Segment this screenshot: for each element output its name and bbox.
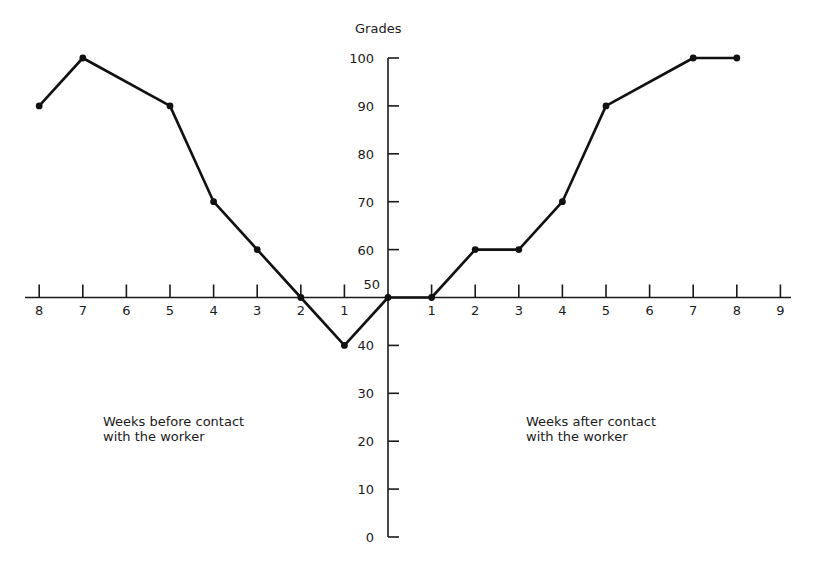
data-point-marker	[428, 294, 435, 301]
x-tick-label: 4	[558, 303, 566, 318]
y-tick-label: 100	[349, 51, 374, 66]
x-tick-labels: 87654321123456789	[35, 303, 784, 318]
y-tick-label: 20	[357, 434, 374, 449]
y-tick-label: 90	[357, 99, 374, 114]
x-tick-label: 2	[471, 303, 479, 318]
x-tick-label: 7	[79, 303, 87, 318]
y-tick-label: 80	[357, 147, 374, 162]
data-point-marker	[385, 294, 392, 301]
data-point-marker	[167, 103, 174, 110]
x-tick-label: 6	[122, 303, 130, 318]
y-tick-label: 0	[366, 530, 374, 545]
x-tick-label: 8	[733, 303, 741, 318]
data-point-marker	[254, 246, 261, 253]
data-point-marker	[733, 55, 740, 62]
data-point-marker	[79, 55, 86, 62]
x-tick-label: 3	[253, 303, 261, 318]
data-point-marker	[559, 198, 566, 205]
x-tick-label: 3	[515, 303, 523, 318]
data-point-marker	[297, 294, 304, 301]
data-point-marker	[690, 55, 697, 62]
y-tick-label: 50	[363, 277, 380, 292]
data-point-marker	[515, 246, 522, 253]
x-tick-label: 1	[340, 303, 348, 318]
x-tick-label: 1	[427, 303, 435, 318]
x-tick-label: 2	[297, 303, 305, 318]
y-tick-label: 30	[357, 386, 374, 401]
x-tick-label: 7	[689, 303, 697, 318]
x-tick-label: 8	[35, 303, 43, 318]
x-tick-label: 4	[209, 303, 217, 318]
x-tick-label: 9	[776, 303, 784, 318]
line-chart: 0102030405060708090100 87654321123456789	[0, 0, 815, 573]
annotation-weeks-after: Weeks after contact with the worker	[526, 414, 656, 444]
x-tick-label: 6	[645, 303, 653, 318]
y-tick-label: 40	[357, 338, 374, 353]
data-point-marker	[36, 103, 43, 110]
data-point-marker	[210, 198, 217, 205]
annotation-weeks-before: Weeks before contact with the worker	[103, 414, 244, 444]
data-point-marker	[341, 342, 348, 349]
data-point-marker	[472, 246, 479, 253]
y-tick-label: 10	[357, 482, 374, 497]
y-axis-title: Grades	[355, 21, 401, 36]
x-tick-label: 5	[166, 303, 174, 318]
y-tick-label: 70	[357, 195, 374, 210]
x-tick-label: 5	[602, 303, 610, 318]
y-tick-label: 60	[357, 243, 374, 258]
data-point-marker	[603, 103, 610, 110]
